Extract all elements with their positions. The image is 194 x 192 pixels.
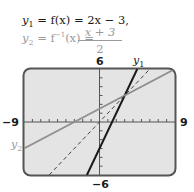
graph-plot bbox=[0, 0, 194, 192]
y1-curve-label-sub: 1 bbox=[139, 60, 144, 69]
xmax-label: 9 bbox=[180, 116, 188, 129]
y2-curve-label-sub: 2 bbox=[17, 144, 22, 153]
ymax-label: 6 bbox=[96, 55, 104, 68]
y2-curve-label: y2 bbox=[11, 138, 22, 153]
xmin-label: −9 bbox=[2, 116, 19, 129]
ymin-label: −6 bbox=[92, 178, 109, 191]
y1-curve-label: y1 bbox=[133, 54, 144, 69]
